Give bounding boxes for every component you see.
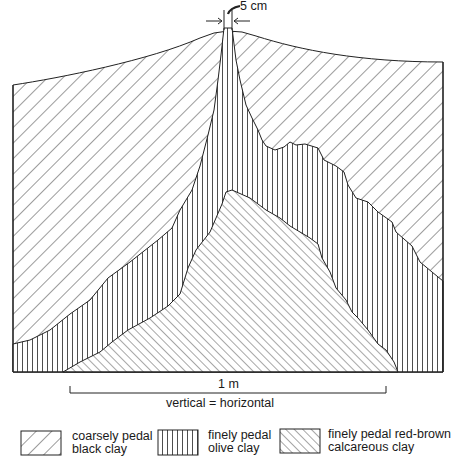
legend-swatch-red-brown-clay	[280, 429, 320, 453]
legend-swatch-black-clay	[21, 431, 61, 455]
legend-item-olive-clay: finely pedal olive clay	[208, 429, 271, 455]
legend-item-black-clay: coarsely pedal black clay	[72, 430, 153, 456]
scale-note: vertical = horizontal	[166, 397, 274, 410]
legend-item-red-brown-clay: finely pedal red-brown calcareous clay	[328, 428, 451, 454]
scale-bar-label: 1 m	[218, 378, 239, 391]
width-marker-label: 5 cm	[240, 0, 267, 13]
legend-swatch-olive-clay	[158, 430, 198, 455]
